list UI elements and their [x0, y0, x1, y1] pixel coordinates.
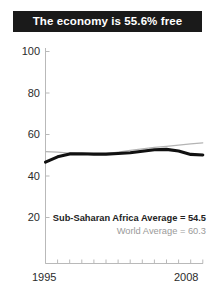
y-tick-label-20: 20 [8, 212, 40, 223]
x-tick-label-2008: 2008 [174, 272, 198, 283]
chart-figure: The economy is 55.6% free [0, 0, 215, 302]
y-tick-label-60: 60 [8, 129, 40, 140]
y-tick-label-80: 80 [8, 88, 40, 99]
annotation-world-average: World Average = 60.3 [48, 225, 206, 238]
y-tick-label-100: 100 [8, 46, 40, 57]
y-tick-label-40: 40 [8, 171, 40, 182]
chart-annotations: Sub-Saharan Africa Average = 54.5 World … [48, 212, 206, 237]
x-tick-marks [46, 260, 203, 264]
annotation-sub-saharan-africa-average: Sub-Saharan Africa Average = 54.5 [48, 212, 206, 225]
x-tick-label-1995: 1995 [32, 272, 56, 283]
y-tick-marks [46, 52, 50, 218]
